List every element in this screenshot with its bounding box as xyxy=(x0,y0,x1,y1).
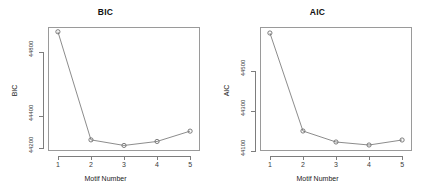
x-tick-mark xyxy=(157,156,158,160)
x-tick-label: 3 xyxy=(114,161,134,168)
x-tick-label: 1 xyxy=(48,161,68,168)
panel-title-bic: BIC xyxy=(0,7,211,17)
x-tick-mark xyxy=(336,156,337,160)
y-axis-line-bic xyxy=(43,52,44,147)
x-tick-label: 2 xyxy=(293,161,313,168)
y-tick-mark xyxy=(251,151,256,152)
series-aic xyxy=(260,27,412,151)
x-tick-mark xyxy=(402,156,403,160)
panel-bic: BIC 448004440044200 12345 Motif Number B… xyxy=(0,0,211,195)
y-tick-label: 44200 xyxy=(0,142,40,148)
x-tick-mark xyxy=(58,156,59,160)
y-tick-label: 44800 xyxy=(0,46,40,52)
y-axis-title-aic-text: AIC xyxy=(223,84,230,96)
x-tick-label: 4 xyxy=(359,161,379,168)
x-axis-title-bic: Motif Number xyxy=(0,175,211,182)
y-tick-label-text: 44300 xyxy=(241,100,247,117)
y-tick-mark xyxy=(39,116,44,117)
series-line xyxy=(270,33,402,145)
y-tick-label-text: 44400 xyxy=(29,105,35,122)
x-tick-label: 1 xyxy=(260,161,280,168)
x-tick-label: 5 xyxy=(180,161,200,168)
x-tick-label: 2 xyxy=(81,161,101,168)
x-tick-label: 3 xyxy=(326,161,346,168)
y-tick-label-text: 44200 xyxy=(29,136,35,153)
y-tick-mark xyxy=(251,111,256,112)
x-tick-label: 5 xyxy=(392,161,412,168)
y-axis-title-aic: AIC xyxy=(220,62,234,118)
x-tick-label: 4 xyxy=(147,161,167,168)
x-tick-mark xyxy=(190,156,191,160)
y-axis-title-bic-text: BIC xyxy=(11,84,18,96)
y-tick-label-text: 44800 xyxy=(29,41,35,58)
y-tick-label-text: 44100 xyxy=(241,140,247,157)
y-tick-mark xyxy=(251,71,256,72)
panel-title-aic: AIC xyxy=(212,7,423,17)
y-tick-mark xyxy=(39,148,44,149)
x-tick-mark xyxy=(91,156,92,160)
y-tick-mark xyxy=(39,52,44,53)
y-axis-title-bic: BIC xyxy=(8,62,22,118)
x-tick-mark xyxy=(124,156,125,160)
x-tick-mark xyxy=(270,156,271,160)
x-tick-mark xyxy=(303,156,304,160)
x-tick-mark xyxy=(369,156,370,160)
series-line xyxy=(58,32,190,146)
y-tick-label-text: 44500 xyxy=(241,60,247,77)
x-axis-title-aic: Motif Number xyxy=(212,175,423,182)
y-tick-label: 44100 xyxy=(212,145,252,151)
panel-aic: AIC 445004430044100 12345 Motif Number A… xyxy=(212,0,423,195)
figure-canvas: BIC 448004440044200 12345 Motif Number B… xyxy=(0,0,423,195)
series-bic xyxy=(48,27,200,151)
